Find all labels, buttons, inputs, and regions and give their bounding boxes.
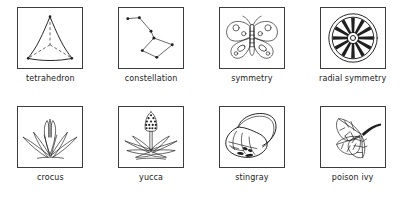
card-poison-ivy: poison ivy xyxy=(302,99,403,198)
card-yucca: yucca xyxy=(101,99,202,198)
card-stingray: stingray xyxy=(202,99,303,198)
illustration-frame xyxy=(320,106,386,168)
butterfly-icon xyxy=(220,8,284,68)
card-caption: tetrahedron xyxy=(26,74,75,84)
card-caption: radial symmetry xyxy=(319,74,386,84)
illustration-frame xyxy=(118,7,184,69)
card-symmetry: symmetry xyxy=(202,0,303,99)
illustration-frame xyxy=(320,7,386,69)
card-crocus: crocus xyxy=(0,99,101,198)
stingray-icon xyxy=(220,107,284,167)
poison-ivy-icon xyxy=(321,107,385,167)
crocus-icon xyxy=(18,107,82,167)
illustration-frame xyxy=(17,106,83,168)
card-caption: crocus xyxy=(37,173,64,183)
illustration-grid: tetrahedron constellation xyxy=(0,0,403,198)
illustration-frame xyxy=(219,106,285,168)
constellation-icon xyxy=(119,8,183,68)
illustration-frame xyxy=(118,106,184,168)
card-caption: yucca xyxy=(139,173,163,183)
illustration-frame xyxy=(17,7,83,69)
card-radial-symmetry: radial symmetry xyxy=(302,0,403,99)
card-tetrahedron: tetrahedron xyxy=(0,0,101,99)
card-caption: stingray xyxy=(235,173,268,183)
illustration-frame xyxy=(219,7,285,69)
card-caption: poison ivy xyxy=(332,173,374,183)
tetrahedron-icon xyxy=(18,8,82,68)
card-caption: symmetry xyxy=(231,74,272,84)
card-caption: constellation xyxy=(125,74,178,84)
yucca-icon xyxy=(119,107,183,167)
card-constellation: constellation xyxy=(101,0,202,99)
wagon-wheel-icon xyxy=(321,8,385,68)
